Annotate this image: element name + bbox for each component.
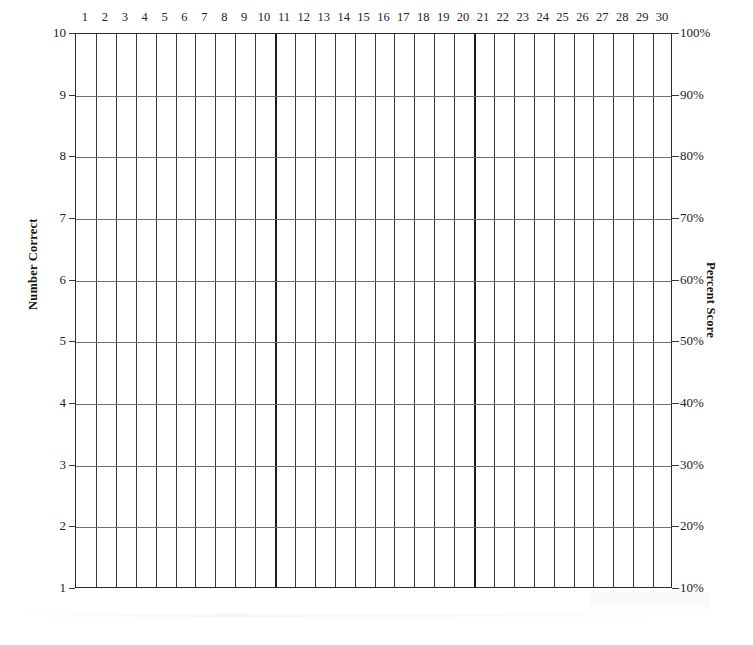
- y-axis-left-tick-label: 3: [38, 458, 66, 472]
- horizontal-gridline: [76, 527, 671, 528]
- y-axis-right-tick-label: 20%: [680, 519, 730, 533]
- vertical-gridline: [176, 34, 177, 587]
- horizontal-gridline: [76, 219, 671, 220]
- vertical-gridline: [494, 34, 495, 587]
- y-axis-right-tick-label: 30%: [680, 458, 730, 472]
- vertical-gridline: [514, 34, 515, 587]
- paper-artifact: [0, 614, 753, 617]
- vertical-gridline: [355, 34, 356, 587]
- vertical-gridline: [275, 34, 277, 587]
- horizontal-gridline: [76, 342, 671, 343]
- vertical-gridline: [414, 34, 415, 587]
- vertical-gridline: [394, 34, 395, 587]
- scoring-grid-chart: Number Correct Percent Score 12345678910…: [0, 0, 753, 645]
- vertical-gridline: [315, 34, 316, 587]
- horizontal-gridline: [76, 96, 671, 97]
- y-axis-left-tick-label: 9: [38, 88, 66, 102]
- vertical-gridline: [255, 34, 256, 587]
- y-axis-right-tick-label: 70%: [680, 211, 730, 225]
- vertical-gridline: [375, 34, 376, 587]
- y-axis-right-tick-mark: [672, 156, 679, 157]
- y-axis-right-tick-label: 80%: [680, 149, 730, 163]
- y-axis-left-tick-label: 1: [38, 581, 66, 595]
- vertical-gridline: [653, 34, 654, 587]
- vertical-gridline: [96, 34, 97, 587]
- y-axis-right-tick-mark: [672, 218, 679, 219]
- y-axis-left-tick-label: 2: [38, 519, 66, 533]
- vertical-gridline: [195, 34, 196, 587]
- vertical-gridline: [454, 34, 455, 587]
- horizontal-gridline: [76, 157, 671, 158]
- paper-artifact-secondary: [590, 592, 710, 614]
- left-axis-title: Number Correct: [26, 218, 41, 310]
- vertical-gridline: [593, 34, 594, 587]
- y-axis-left-tick-mark: [69, 588, 75, 589]
- y-axis-right-tick-label: 40%: [680, 396, 730, 410]
- vertical-gridline: [554, 34, 555, 587]
- vertical-gridline: [116, 34, 117, 587]
- horizontal-gridline: [76, 404, 671, 405]
- y-axis-right-tick-mark: [672, 280, 679, 281]
- vertical-gridline: [633, 34, 634, 587]
- horizontal-gridline: [76, 466, 671, 467]
- y-axis-right-tick-mark: [672, 341, 679, 342]
- y-axis-right-tick-mark: [672, 403, 679, 404]
- vertical-gridline: [215, 34, 216, 587]
- vertical-gridline: [574, 34, 575, 587]
- vertical-gridline: [474, 34, 476, 587]
- x-axis-tick-label: 30: [647, 10, 677, 24]
- y-axis-left-tick-label: 10: [38, 26, 66, 40]
- y-axis-right-tick-mark: [672, 465, 679, 466]
- vertical-gridline: [434, 34, 435, 587]
- vertical-gridline: [235, 34, 236, 587]
- y-axis-left-tick-label: 6: [38, 273, 66, 287]
- y-axis-right-tick-mark: [672, 526, 679, 527]
- vertical-gridline: [156, 34, 157, 587]
- vertical-gridline: [335, 34, 336, 587]
- y-axis-left-tick-label: 7: [38, 211, 66, 225]
- vertical-gridline: [295, 34, 296, 587]
- y-axis-right-tick-label: 60%: [680, 273, 730, 287]
- vertical-gridline: [613, 34, 614, 587]
- y-axis-right-tick-mark: [672, 33, 679, 34]
- plot-grid-area[interactable]: [75, 33, 672, 588]
- y-axis-left-tick-label: 5: [38, 334, 66, 348]
- y-axis-right-tick-label: 90%: [680, 88, 730, 102]
- y-axis-right-tick-label: 100%: [680, 26, 730, 40]
- y-axis-left-tick-label: 4: [38, 396, 66, 410]
- vertical-gridline: [136, 34, 137, 587]
- y-axis-right-tick-label: 50%: [680, 334, 730, 348]
- y-axis-right-tick-mark: [672, 588, 679, 589]
- vertical-gridline: [534, 34, 535, 587]
- y-axis-left-tick-label: 8: [38, 149, 66, 163]
- horizontal-gridline: [76, 281, 671, 282]
- y-axis-right-tick-mark: [672, 95, 679, 96]
